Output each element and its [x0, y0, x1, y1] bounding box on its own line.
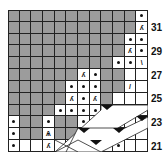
knitting-chart: ʎʎ\ʎ/ʎʎѦʎ	[8, 10, 148, 152]
row-number-label: 21	[151, 141, 162, 152]
cable-cross-icon	[8, 10, 148, 152]
row-number-label: 23	[151, 117, 162, 128]
row-number-label: 29	[151, 46, 162, 57]
row-number-label: 27	[151, 70, 162, 81]
row-number-label: 31	[151, 22, 162, 33]
row-number-label: 25	[151, 93, 162, 104]
